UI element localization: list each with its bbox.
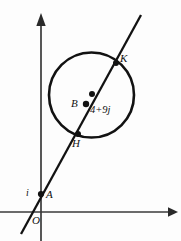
point-b-dot	[83, 101, 89, 107]
imaginary-axis-arrowhead	[36, 13, 45, 26]
point-midpoint-dot	[89, 91, 95, 97]
point-k-dot	[113, 60, 119, 66]
imaginary-axis	[36, 13, 45, 241]
origin-label: O	[32, 215, 40, 226]
real-axis-arrowhead	[168, 207, 178, 217]
point-b-label: B	[71, 98, 78, 109]
real-axis	[0, 207, 178, 217]
diagram-canvas	[0, 0, 181, 241]
point-a-label: A	[46, 189, 53, 200]
imaginary-unit-label: i	[26, 188, 29, 198]
point-a-dot	[38, 191, 44, 197]
centre-value-label: 4+9j	[90, 105, 111, 116]
point-h-label: H	[72, 138, 80, 149]
argand-diagram-figure: i A O B 4+9j H K	[0, 0, 181, 241]
point-k-label: K	[120, 53, 127, 64]
